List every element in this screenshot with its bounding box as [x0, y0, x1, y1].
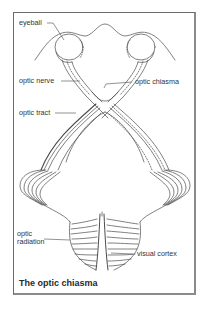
label-optic-tract: optic tract — [19, 109, 50, 117]
left-radiation-lines — [71, 219, 97, 266]
left-eyeball-icon — [55, 34, 83, 63]
right-fan — [150, 170, 190, 205]
label-optic-nerve: optic nerve — [19, 77, 54, 85]
label-visual-cortex: visual cortex — [137, 250, 177, 258]
left-fan — [20, 170, 60, 205]
label-optic-radiation: optic radiation — [17, 230, 45, 245]
leader-lines — [44, 23, 133, 254]
optic-chiasma-illustration — [0, 0, 210, 311]
label-eyeball: eyeball — [19, 19, 42, 27]
figure-caption: The optic chiasma — [19, 278, 98, 288]
label-optic-radiation-line2: radiation — [17, 238, 45, 246]
right-radiation-lines — [107, 219, 139, 266]
label-optic-chiasma: optic chiasma — [135, 78, 179, 86]
right-eyeball-icon — [127, 34, 155, 63]
